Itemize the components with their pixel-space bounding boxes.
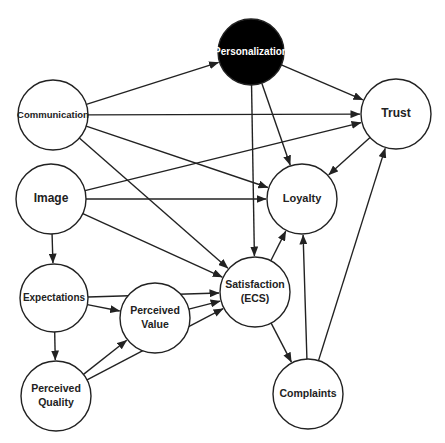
node-satisfaction: Satisfaction(ECS): [220, 257, 290, 327]
diagram-canvas: PersonalizationCommunicationTrustImageLo…: [0, 0, 445, 443]
node-personalization: Personalization: [214, 19, 288, 85]
node-complaints: Complaints: [273, 359, 343, 429]
edge-personalization-to-trust: [281, 65, 363, 100]
node-label: Value: [141, 318, 169, 330]
edge-perceived_value-to-satisfaction: [189, 301, 220, 309]
edge-communication-to-loyalty: [86, 126, 268, 187]
node-expectations: Expectations: [20, 264, 88, 332]
node-loyalty: Loyalty: [267, 164, 337, 234]
path-model-diagram: PersonalizationCommunicationTrustImageLo…: [0, 0, 445, 443]
edge-perceived_quality-to-perceived_value: [83, 340, 126, 374]
edge-communication-to-trust: [88, 114, 360, 115]
edge-trust-to-loyalty: [329, 137, 370, 174]
node-label: Expectations: [23, 292, 86, 303]
edge-expectations-to-perceived_quality: [55, 332, 56, 360]
edges-layer: [52, 62, 385, 379]
node-label: Perceived: [31, 382, 81, 394]
node-label: Complaints: [279, 387, 336, 399]
node-label: Image: [34, 191, 69, 205]
edge-image-to-expectations: [52, 234, 53, 263]
node-label: Quality: [38, 396, 74, 408]
nodes-layer: PersonalizationCommunicationTrustImageLo…: [16, 19, 431, 431]
node-image: Image: [16, 164, 86, 234]
edge-personalization-to-loyalty: [262, 83, 290, 165]
node-communication: Communication: [17, 80, 89, 150]
node-perceived-value: PerceivedValue: [120, 283, 190, 353]
node-label: Personalization: [214, 46, 288, 57]
edge-communication-to-personalization: [86, 62, 218, 104]
node-label: (ECS): [241, 292, 270, 304]
edge-satisfaction-to-loyalty: [271, 231, 286, 261]
edge-expectations-to-perceived_value: [87, 305, 119, 311]
edge-personalization-to-satisfaction: [252, 85, 255, 256]
edge-communication-to-satisfaction: [79, 138, 228, 268]
node-label: Perceived: [130, 304, 180, 316]
node-label: Satisfaction: [225, 278, 285, 290]
node-trust: Trust: [361, 79, 431, 149]
edge-satisfaction-to-complaints: [271, 323, 291, 362]
node-perceived-quality: PerceivedQuality: [21, 361, 91, 431]
edge-complaints-to-loyalty: [303, 235, 307, 359]
node-label: Loyalty: [283, 192, 322, 204]
node-label: Trust: [381, 106, 410, 120]
node-label: Communication: [17, 109, 89, 120]
